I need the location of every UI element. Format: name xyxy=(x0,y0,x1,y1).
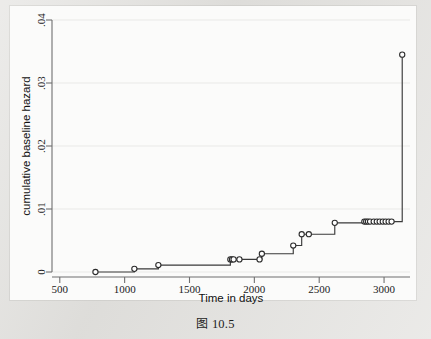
figure-caption: 图 10.5 xyxy=(0,314,431,332)
data-point-marker xyxy=(332,220,337,225)
data-point-marker xyxy=(156,262,161,267)
data-point-marker xyxy=(400,52,405,57)
data-point-marker xyxy=(291,243,296,248)
y-axis-tick-label: .02 xyxy=(35,139,47,153)
data-point-marker xyxy=(259,251,264,256)
figure-caption-prefix: 图 xyxy=(196,317,208,331)
y-axis-tick-label: .04 xyxy=(35,13,47,27)
data-point-marker xyxy=(299,232,304,237)
data-point-marker xyxy=(306,232,311,237)
data-point-marker xyxy=(237,257,242,262)
x-axis: 50010001500200025003000 Time in days xyxy=(52,277,410,304)
hazard-data-markers xyxy=(93,52,405,275)
y-axis-tick-label: .01 xyxy=(35,202,47,216)
data-point-marker xyxy=(93,269,98,274)
x-axis-tick-label: 1000 xyxy=(114,283,137,295)
data-point-marker xyxy=(389,219,394,224)
x-axis-tick-label: 500 xyxy=(52,283,69,295)
data-point-marker xyxy=(257,257,262,262)
y-axis-ticks xyxy=(46,20,52,272)
y-axis-tick-labels: 0.01.02.03.04 xyxy=(35,13,47,275)
gridlines-group xyxy=(52,20,410,272)
hazard-step-series xyxy=(93,52,405,275)
x-axis-title: Time in days xyxy=(199,292,264,304)
x-axis-tick-label: 3000 xyxy=(373,283,396,295)
y-axis-title: cumulative baseline hazard xyxy=(20,76,32,215)
x-axis-tick-label: 1500 xyxy=(178,283,201,295)
y-axis-tick-label: .03 xyxy=(35,76,47,90)
hazard-step-line xyxy=(95,55,402,272)
cumulative-hazard-chart: 0.01.02.03.04 cumulative baseline hazard… xyxy=(0,0,431,310)
figure-root: 0.01.02.03.04 cumulative baseline hazard… xyxy=(0,0,431,339)
x-axis-tick-label: 2500 xyxy=(308,283,331,295)
data-point-marker xyxy=(231,257,236,262)
data-point-marker xyxy=(132,266,137,271)
figure-caption-number: 10.5 xyxy=(212,317,235,331)
y-axis: 0.01.02.03.04 cumulative baseline hazard xyxy=(20,13,52,275)
y-axis-tick-label: 0 xyxy=(35,269,47,275)
x-axis-ticks xyxy=(60,277,384,283)
